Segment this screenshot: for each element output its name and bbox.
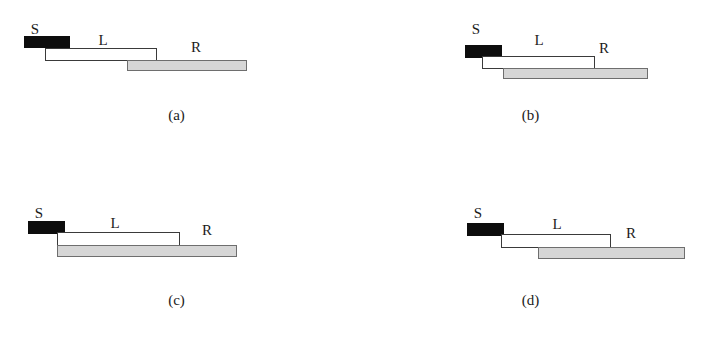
figure-canvas: SLR(a)SLR(b)SLR(c)SLR(d)	[0, 0, 707, 343]
panel-a-segment-s-bar	[24, 36, 70, 48]
panel-d: SLR(d)	[354, 185, 707, 343]
panel-b-segment-l-label: L	[534, 33, 543, 48]
panel-d-caption: (d)	[354, 293, 707, 308]
panel-b: SLR(b)	[354, 0, 707, 171]
panel-a: SLR(a)	[0, 0, 353, 171]
panel-d-segment-s-label: S	[474, 206, 482, 221]
panel-b-caption: (b)	[354, 108, 707, 123]
panel-c: SLR(c)	[0, 185, 353, 343]
panel-b-segment-r-label: R	[599, 41, 609, 56]
panel-b-segment-s-label: S	[472, 22, 480, 37]
panel-a-segment-s-label: S	[31, 22, 39, 37]
panel-c-segment-l-label: L	[110, 216, 119, 231]
panel-d-segment-r-label: R	[626, 226, 636, 241]
panel-c-caption: (c)	[0, 293, 353, 308]
panel-c-segment-l-bar	[57, 232, 180, 246]
panel-a-caption: (a)	[0, 108, 353, 123]
panel-d-segment-s-bar	[467, 223, 504, 236]
panel-c-segment-r-bar	[57, 245, 237, 257]
panel-d-segment-l-bar	[501, 234, 611, 248]
panel-c-segment-s-label: S	[35, 206, 43, 221]
panel-a-segment-r-label: R	[191, 40, 201, 55]
panel-a-segment-l-label: L	[98, 33, 107, 48]
panel-c-segment-r-label: R	[202, 223, 212, 238]
panel-d-segment-r-bar	[538, 247, 685, 259]
panel-b-segment-r-bar	[503, 68, 648, 79]
panel-d-segment-l-label: L	[552, 217, 561, 232]
panel-a-segment-r-bar	[127, 60, 247, 71]
